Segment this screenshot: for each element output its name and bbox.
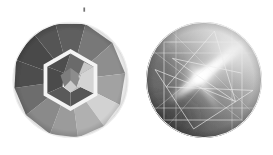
gem-figure-pair	[0, 0, 273, 155]
scan-speck	[83, 8, 85, 12]
panel-left-faceted-gem	[13, 22, 129, 138]
figure-panel	[0, 0, 273, 155]
